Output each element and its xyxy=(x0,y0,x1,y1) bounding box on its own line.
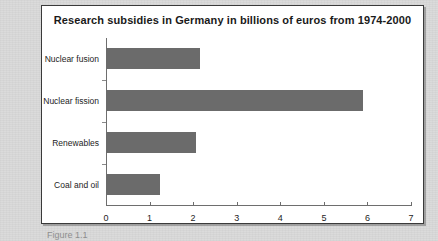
x-axis-label-1: 1 xyxy=(140,213,160,223)
x-axis-tick xyxy=(150,202,151,206)
x-axis-label-7: 7 xyxy=(401,213,421,223)
x-axis-label-4: 4 xyxy=(270,213,290,223)
x-axis-tick xyxy=(193,202,194,206)
x-axis-tick xyxy=(324,202,325,206)
category-label-renewables: Renewables xyxy=(52,138,99,148)
x-axis-label-5: 5 xyxy=(314,213,334,223)
bar-renewables xyxy=(106,132,196,153)
x-axis-line xyxy=(106,205,411,206)
plot-area: 0 1 2 3 4 5 6 7 Nuclear fusion Nuclear f… xyxy=(106,38,411,206)
category-label-coal-and-oil: Coal and oil xyxy=(54,180,99,190)
category-label-nuclear-fission: Nuclear fission xyxy=(43,96,99,106)
category-label-nuclear-fusion: Nuclear fusion xyxy=(45,54,99,64)
y-axis-tick xyxy=(102,80,106,81)
y-axis-tick xyxy=(102,122,106,123)
figure-frame: Research subsidies in Germany in billion… xyxy=(41,5,424,224)
x-axis-label-2: 2 xyxy=(183,213,203,223)
figure-caption: Figure 1.1 xyxy=(47,230,88,240)
x-axis-label-3: 3 xyxy=(227,213,247,223)
x-axis-label-6: 6 xyxy=(357,213,377,223)
x-axis-tick xyxy=(106,202,107,206)
bar-nuclear-fission xyxy=(106,90,363,111)
bar-coal-and-oil xyxy=(106,174,160,195)
bar-nuclear-fusion xyxy=(106,48,200,69)
chart-title: Research subsidies in Germany in billion… xyxy=(42,14,423,26)
x-axis-tick xyxy=(411,202,412,206)
x-axis-tick xyxy=(280,202,281,206)
x-axis-tick xyxy=(237,202,238,206)
x-axis-tick xyxy=(367,202,368,206)
x-axis-label-0: 0 xyxy=(96,213,116,223)
y-axis-tick xyxy=(102,164,106,165)
